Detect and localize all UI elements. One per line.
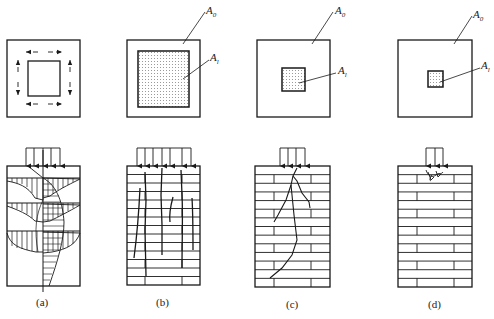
- inner-area-b: [138, 51, 189, 107]
- vertical-stress-hatching: [43, 184, 64, 280]
- brick-courses: [127, 175, 472, 288]
- label-a0-c: A0: [335, 4, 345, 19]
- caption-d: (d): [428, 298, 441, 310]
- caption-a: (a): [36, 296, 48, 308]
- leader-a0-c: [312, 12, 333, 44]
- outer-area-a: [7, 40, 80, 117]
- crushing-d: [426, 170, 443, 181]
- inner-area-a: [28, 61, 60, 96]
- panel-a-elevation: [7, 148, 80, 292]
- leader-a0-b: [183, 12, 205, 44]
- caption-c: (c): [286, 298, 298, 310]
- panel-b-elevation: [127, 148, 200, 285]
- panel-d-plan: [398, 16, 480, 117]
- label-al-c: Al: [338, 64, 347, 79]
- label-a0-d: A0: [473, 8, 483, 23]
- leader-al-d: [440, 68, 480, 82]
- inner-area-d: [428, 71, 443, 87]
- load-arrows-d: [426, 148, 443, 166]
- inner-area-c: [282, 68, 305, 91]
- load-arrows-b: [137, 148, 191, 166]
- load-arrows-c: [280, 148, 305, 166]
- caption-b: (b): [156, 296, 169, 308]
- panel-a-plan: [7, 40, 80, 117]
- label-a0-b: A0: [206, 4, 216, 19]
- panel-c-plan: [257, 12, 336, 117]
- local-compression-diagram: [0, 0, 494, 319]
- label-al-b: Al: [210, 51, 219, 66]
- panel-b-plan: [127, 12, 209, 117]
- label-al-d: Al: [481, 59, 490, 74]
